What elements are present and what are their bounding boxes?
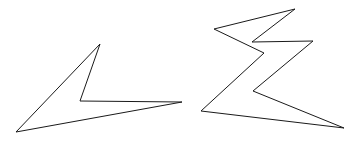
diagram-canvas: [0, 0, 356, 141]
zigzag-shape: [201, 9, 344, 128]
arrowhead-shape: [16, 44, 182, 132]
